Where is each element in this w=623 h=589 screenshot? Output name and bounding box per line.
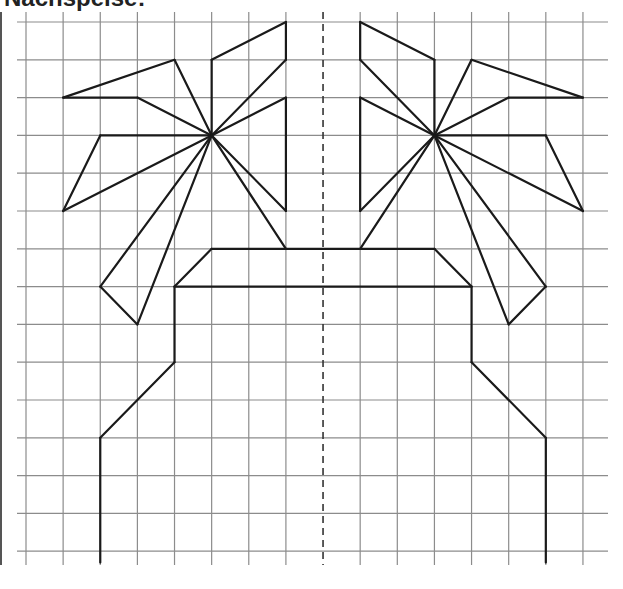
figure-segment (509, 287, 546, 325)
figure-segment (175, 249, 212, 287)
grid-sheet (0, 0, 623, 589)
figure-segment (434, 249, 471, 287)
figure-segment (100, 287, 137, 325)
grid-lines (17, 12, 608, 565)
figure-segment (472, 60, 583, 98)
figure-segment (63, 60, 174, 98)
worksheet-title: Nachspeise: (4, 0, 145, 12)
